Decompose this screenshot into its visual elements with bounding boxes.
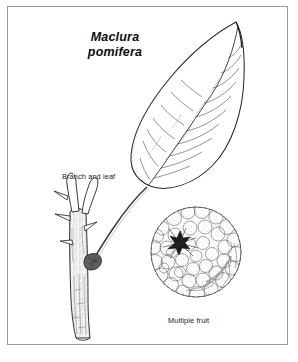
caption-branch-and-leaf: Branch and leaf bbox=[62, 172, 115, 181]
petiole bbox=[93, 187, 149, 262]
species-title: Maclura pomifera bbox=[56, 30, 174, 60]
branch-node bbox=[84, 254, 101, 270]
caption-multiple-fruit: Multiple fruit bbox=[168, 316, 209, 325]
species-epithet: pomifera bbox=[56, 45, 174, 60]
botanical-plate: Maclura pomifera Branch and leaf Multipl… bbox=[0, 0, 298, 362]
branch-figure bbox=[54, 173, 101, 340]
genus-name: Maclura bbox=[56, 30, 174, 45]
fruit-figure bbox=[147, 204, 244, 302]
